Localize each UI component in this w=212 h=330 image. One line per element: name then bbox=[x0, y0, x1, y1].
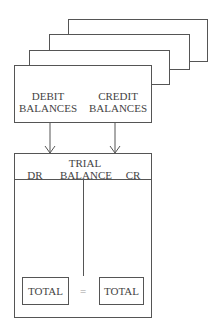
debit-total-label: TOTAL bbox=[23, 285, 68, 297]
credit-total-label: TOTAL bbox=[100, 285, 143, 297]
trial-balance-title: TRIAL BALANCE bbox=[60, 157, 110, 181]
credit-total-box: TOTAL bbox=[99, 277, 144, 305]
equals-sign: = bbox=[76, 285, 90, 297]
column-divider bbox=[83, 180, 84, 276]
trial-balance-box: TRIAL BALANCE DR CR TOTAL = TOTAL bbox=[14, 153, 152, 318]
debit-total-box: TOTAL bbox=[22, 277, 69, 305]
